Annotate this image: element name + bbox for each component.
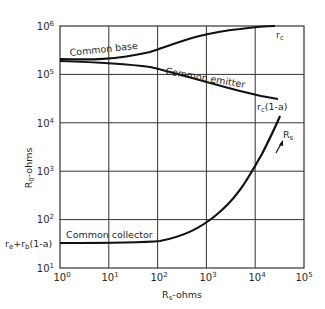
y-tick-labels: 106 105 104 103 102 101: [37, 20, 55, 274]
svg-text:105: 105: [295, 271, 312, 283]
rc-label: rc: [276, 29, 284, 42]
svg-text:104: 104: [37, 117, 55, 129]
rc-1-a-label: rc(1-a): [257, 101, 287, 114]
svg-text:101: 101: [101, 271, 118, 283]
common-collector-curve: [60, 116, 280, 243]
chart: 106 105 104 103 102 101 100 101 102 103 …: [0, 0, 325, 309]
common-collector-label: Common collector: [66, 229, 153, 240]
svg-text:106: 106: [37, 20, 55, 32]
svg-text:103: 103: [199, 271, 216, 283]
re-rb-label: re+rb(1-a): [5, 238, 52, 251]
svg-text:100: 100: [53, 271, 70, 283]
svg-text:102: 102: [150, 271, 167, 283]
x-tick-labels: 100 101 102 103 104 105: [53, 271, 312, 283]
svg-text:102: 102: [37, 213, 54, 225]
svg-text:103: 103: [37, 165, 54, 177]
x-axis-title: Rs-ohms: [162, 289, 202, 302]
svg-text:101: 101: [37, 262, 54, 274]
common-emitter-label: Common emitter: [165, 65, 247, 90]
y-axis-title: R0-ohms: [23, 148, 36, 189]
rs-arrow-icon: [276, 140, 283, 153]
svg-text:105: 105: [37, 68, 54, 80]
svg-text:104: 104: [248, 271, 266, 283]
rs-label: Rs: [283, 129, 294, 142]
